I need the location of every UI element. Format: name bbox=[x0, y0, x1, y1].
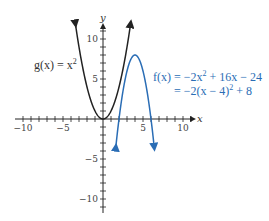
f-function-label-line2: = −2(x − 4)2 + 8 bbox=[174, 83, 252, 98]
f-function-label-line1: f(x) = −2x2 + 16x − 24 bbox=[153, 69, 262, 84]
g-function-label: g(x) = x2 bbox=[34, 57, 77, 72]
x-tick-label: 5 bbox=[140, 123, 146, 133]
y-tick-label: −5 bbox=[85, 154, 99, 164]
x-tick-label: 10 bbox=[177, 123, 189, 133]
function-graph: −10−5510 −10−5510 x y g(x) = x2 f(x) = −… bbox=[0, 0, 269, 221]
y-tick-label: 5 bbox=[92, 74, 98, 84]
y-tick-label: −10 bbox=[79, 194, 98, 204]
curve-f-parabola bbox=[116, 55, 154, 147]
x-tick-label: −10 bbox=[14, 123, 33, 133]
y-axis-label: y bbox=[99, 12, 106, 23]
x-tick-label: −5 bbox=[56, 123, 70, 133]
y-tick-label: 10 bbox=[87, 34, 99, 44]
x-axis-label: x bbox=[197, 113, 203, 124]
